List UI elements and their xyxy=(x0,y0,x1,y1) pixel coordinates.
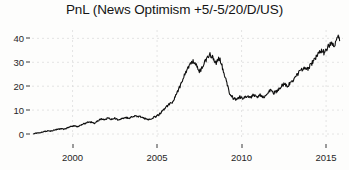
x-axis-tick-mark xyxy=(72,144,73,148)
x-axis-tick-label: 2005 xyxy=(146,152,167,163)
x-axis: 2000200520102015 xyxy=(0,0,349,170)
x-axis-tick-label: 2015 xyxy=(316,152,337,163)
x-axis-tick-mark xyxy=(326,144,327,148)
x-axis-tick-mark xyxy=(241,144,242,148)
x-axis-tick-label: 2010 xyxy=(231,152,252,163)
x-axis-tick-mark xyxy=(157,144,158,148)
chart-container: PnL (News Optimism +5/-5/20/D/US) 010203… xyxy=(0,0,349,170)
x-axis-tick-label: 2000 xyxy=(62,152,83,163)
